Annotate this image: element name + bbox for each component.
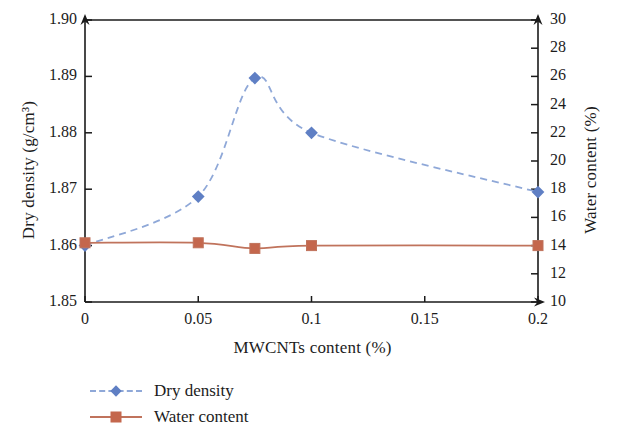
series-line-dry-density	[85, 77, 538, 246]
data-point-diamond	[532, 186, 545, 199]
right-tick-label: 28	[550, 38, 590, 56]
data-point-square	[533, 241, 543, 251]
chart-figure: 1.851.861.871.881.891.90 101214161820222…	[0, 0, 623, 434]
legend-key-water-content	[88, 407, 144, 427]
bottom-axis-ticks	[85, 296, 538, 302]
data-point-square	[80, 238, 90, 248]
bottom-tick-label: 0.1	[282, 310, 342, 328]
chart-legend: Dry density Water content	[88, 378, 248, 430]
data-point-diamond	[192, 190, 205, 203]
left-tick-label: 1.90	[17, 10, 77, 28]
y-axis-right-title: Water content (%)	[581, 55, 601, 285]
bottom-tick-label: 0.2	[508, 310, 568, 328]
y-axis-left-title: Dry density (g/cm³)	[19, 55, 39, 285]
data-point-square	[193, 238, 203, 248]
data-point-diamond	[305, 126, 318, 139]
legend-item-dry-density[interactable]: Dry density	[88, 378, 248, 404]
legend-label-dry-density: Dry density	[154, 381, 234, 401]
data-series-layer	[79, 72, 545, 254]
left-axis-ticks	[85, 20, 92, 302]
right-tick-label: 10	[550, 292, 590, 310]
data-point-square	[250, 243, 260, 253]
bottom-tick-label: 0.15	[395, 310, 455, 328]
bottom-tick-label: 0	[55, 310, 115, 328]
bottom-tick-label: 0.05	[168, 310, 228, 328]
diamond-marker-icon	[110, 385, 121, 396]
data-point-diamond	[249, 72, 262, 85]
left-tick-label: 1.85	[17, 292, 77, 310]
plot-canvas	[0, 0, 623, 434]
legend-item-water-content[interactable]: Water content	[88, 404, 248, 430]
right-axis-ticks	[531, 20, 538, 302]
x-axis-title: MWCNTs content (%)	[85, 338, 540, 358]
axis-lines	[81, 14, 546, 307]
data-point-square	[307, 241, 317, 251]
right-tick-label: 30	[550, 10, 590, 28]
legend-key-dry-density	[88, 381, 144, 401]
square-marker-icon	[111, 412, 122, 423]
legend-label-water-content: Water content	[154, 407, 248, 427]
